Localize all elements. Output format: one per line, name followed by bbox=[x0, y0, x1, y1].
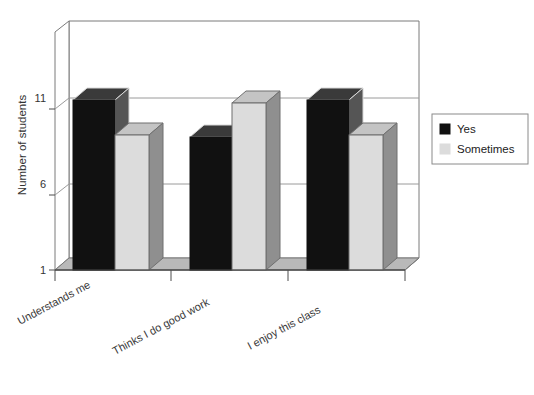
legend-box bbox=[432, 114, 528, 164]
y-axis-title: Number of students bbox=[16, 95, 28, 196]
bar-side-face bbox=[149, 123, 163, 270]
y-axis: 11 6 1 Number of students bbox=[16, 92, 55, 276]
bar-front-face bbox=[115, 135, 149, 270]
bar-sometimes-thinks-i-do-good-work bbox=[232, 91, 280, 270]
bar-sometimes-i-enjoy-this-class bbox=[349, 123, 397, 270]
x-axis-category-labels: Understands me Thinks I do good work I e… bbox=[15, 278, 322, 356]
chart-canvas: 11 6 1 Number of students bbox=[0, 0, 534, 395]
bar-front-face bbox=[73, 100, 115, 270]
bar-front-face bbox=[232, 103, 266, 270]
ytick-label-1: 1 bbox=[40, 264, 46, 276]
legend-label-sometimes: Sometimes bbox=[457, 143, 515, 155]
left-wall bbox=[55, 21, 69, 270]
bar-front-face bbox=[307, 100, 349, 270]
ytick-label-6: 6 bbox=[40, 178, 46, 190]
xtick-label-understands-me: Understands me bbox=[15, 278, 92, 326]
legend-swatch-sometimes[interactable] bbox=[440, 144, 450, 154]
ytick-label-11: 11 bbox=[35, 92, 46, 104]
bar-side-face bbox=[266, 91, 280, 270]
legend-swatch-yes[interactable] bbox=[440, 124, 450, 134]
bar-chart: 11 6 1 Number of students bbox=[0, 0, 534, 395]
bar-front-face bbox=[190, 137, 232, 270]
bar-side-face bbox=[383, 123, 397, 270]
bar-sometimes-understands-me bbox=[115, 123, 163, 270]
bar-front-face bbox=[349, 135, 383, 270]
x-axis bbox=[55, 270, 405, 281]
legend: Yes Sometimes bbox=[432, 114, 528, 164]
xtick-label-thinks-i-do-good-work: Thinks I do good work bbox=[110, 295, 211, 356]
legend-label-yes: Yes bbox=[457, 123, 476, 135]
xtick-label-i-enjoy-this-class: I enjoy this class bbox=[245, 303, 322, 352]
